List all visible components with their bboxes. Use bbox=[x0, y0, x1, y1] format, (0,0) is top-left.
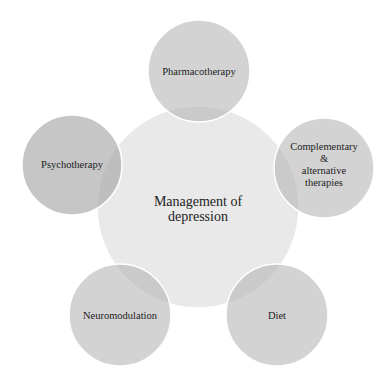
label-line: Diet bbox=[268, 310, 286, 322]
label-psychotherapy: Psychotherapy bbox=[41, 159, 103, 171]
label-line: Psychotherapy bbox=[41, 159, 103, 171]
label-line: therapies bbox=[290, 177, 358, 189]
center-label-line1: Management of bbox=[154, 194, 242, 209]
label-complementary: Complementary & alternative therapies bbox=[290, 141, 358, 189]
diagram-canvas bbox=[0, 0, 391, 383]
label-line: Neuromodulation bbox=[83, 310, 157, 322]
label-line: alternative bbox=[290, 165, 358, 177]
center-label-line2: depression bbox=[154, 209, 242, 224]
label-neuromodulation: Neuromodulation bbox=[83, 310, 157, 322]
label-line: Pharmacotherapy bbox=[162, 66, 235, 78]
label-diet: Diet bbox=[268, 310, 286, 322]
center-label: Management of depression bbox=[154, 194, 242, 225]
label-pharmacotherapy: Pharmacotherapy bbox=[162, 66, 235, 78]
label-line: Complementary & bbox=[290, 141, 358, 165]
